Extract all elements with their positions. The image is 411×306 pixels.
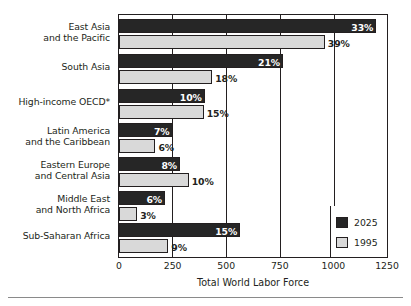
x-axis-title: Total World Labor Force — [118, 278, 388, 288]
category-label-4: Latin Americaand the Caribbean — [25, 125, 110, 148]
legend-label-1995: 1995 — [354, 238, 378, 247]
bar-label-2025-7: 15% — [215, 227, 237, 236]
category-label-6: Middle Eastand North Africa — [36, 193, 110, 216]
x-tick-750: 750 — [271, 261, 289, 270]
x-tick-1000: 1000 — [322, 261, 346, 270]
category-label-1: East Asiaand the Pacific — [43, 21, 110, 44]
category-label-2: South Asia — [62, 61, 110, 72]
bar-label-1995-3: 15% — [207, 109, 229, 118]
legend-entry-2025: 2025 — [336, 216, 378, 229]
bar-label-1995-2: 18% — [215, 74, 237, 83]
bar-label-1995-6: 3% — [140, 211, 156, 220]
chart-figure: East Asiaand the PacificSouth AsiaHigh-i… — [0, 0, 411, 306]
category-label-7: Sub-Saharan Africa — [23, 230, 110, 241]
x-tick-500: 500 — [217, 261, 235, 270]
gridline-500 — [226, 15, 227, 257]
bar-1995-2 — [119, 70, 212, 84]
bar-1995-5 — [119, 173, 189, 187]
category-label-3: High-income OECD* — [18, 96, 110, 107]
bar-label-1995-5: 10% — [192, 177, 214, 186]
bar-1995-1 — [119, 35, 325, 49]
bar-label-1995-4: 6% — [158, 143, 174, 152]
bar-label-2025-6: 6% — [147, 195, 163, 204]
bar-label-1995-1: 39% — [328, 39, 350, 48]
x-tick-0: 0 — [116, 261, 122, 270]
x-tick-1250: 1250 — [375, 261, 399, 270]
bar-1995-3 — [119, 105, 204, 119]
bar-label-1995-7: 9% — [171, 243, 187, 252]
bar-label-2025-3: 10% — [180, 93, 202, 102]
bar-label-2025-4: 7% — [154, 127, 170, 136]
bar-label-2025-1: 33% — [351, 23, 373, 32]
bar-label-2025-2: 21% — [258, 58, 280, 67]
bar-label-2025-5: 8% — [162, 161, 178, 170]
legend-swatch-2025 — [336, 217, 348, 228]
footer-rule — [8, 297, 403, 298]
legend-swatch-1995 — [336, 237, 348, 248]
bar-1995-4 — [119, 139, 155, 153]
gridline-750 — [280, 15, 281, 257]
legend-entry-1995: 1995 — [336, 236, 378, 249]
legend-label-2025: 2025 — [354, 218, 378, 227]
bar-1995-7 — [119, 239, 168, 253]
x-tick-250: 250 — [164, 261, 182, 270]
category-axis-labels: East Asiaand the PacificSouth AsiaHigh-i… — [0, 14, 114, 258]
category-label-5: Eastern Europeand Central Asia — [35, 159, 110, 182]
bar-2025-1 — [119, 19, 376, 33]
chart-legend: 2025 1995 — [330, 206, 387, 257]
bar-1995-6 — [119, 207, 137, 221]
